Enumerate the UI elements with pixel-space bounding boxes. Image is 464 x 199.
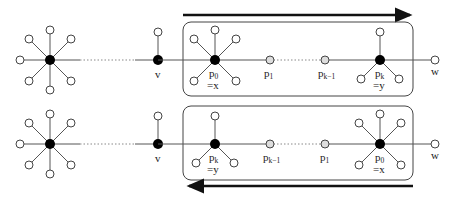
label-v: v [155,68,161,80]
node-pk-minus-1 [321,56,329,64]
node-p0 [375,139,385,149]
label-p1: p1 [264,67,274,81]
label-p0-eq: =x [373,163,385,175]
node-w [431,140,439,148]
node-p1 [266,56,274,64]
top-row: v p0 =x p1 pk−1 [16,15,439,96]
node-pk [375,55,385,65]
node-w [431,56,439,64]
path-reversal-diagram: v p0 =x p1 pk−1 [0,0,464,199]
label-pk-minus-1: pk−1 [263,151,280,165]
label-p0-eq: =x [207,79,219,91]
node-p1 [321,140,329,148]
label-p1: p1 [320,151,330,165]
label-w: w [431,149,439,161]
left-star-center-node [45,139,55,149]
label-v: v [155,152,161,164]
node-pk [210,139,220,149]
node-pk-minus-1 [266,140,274,148]
label-pk-minus-1: pk−1 [318,67,335,81]
left-star-center-node [45,55,55,65]
label-w: w [431,65,439,77]
label-pk-eq: =y [207,163,219,175]
label-pk-eq: =y [373,79,385,91]
node-p0 [210,55,220,65]
bottom-row: v pk =y pk−1 p1 [16,106,439,186]
